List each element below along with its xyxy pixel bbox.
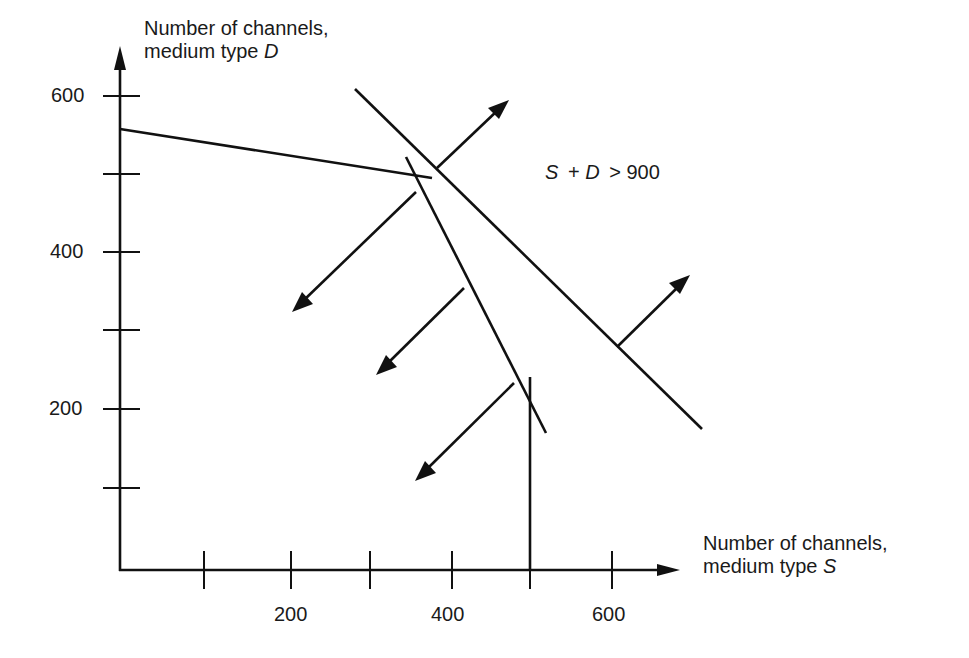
constraint-line-c [406,157,546,433]
direction-arrow-1 [437,110,498,168]
y-axis-arrowhead-icon [114,46,126,70]
x-axis-label-line2: medium type S [703,555,888,578]
y-axis-label-line2: medium type D [144,40,329,63]
x-tick-label-400: 400 [431,603,464,626]
y-tick-label-600: 600 [51,84,84,107]
x-axis-label: Number of channels, medium type S [703,532,888,578]
direction-arrow-2 [617,286,679,347]
y-axis-variable: D [264,40,278,62]
y-ticks [103,96,140,488]
y-axis-label: Number of channels, medium type D [144,17,329,63]
direction-arrow-3 [303,192,416,301]
constraint-line-sum-900 [355,89,702,429]
y-tick-label-400: 400 [50,240,83,263]
direction-arrow-4 [387,288,464,364]
direction-arrow-5 [426,383,514,470]
y-axis-label-line1: Number of channels, [144,17,329,40]
y-tick-label-200: 200 [49,397,82,420]
constraint-annotation: S + D > 900 [545,161,660,184]
x-axis-variable: S [823,555,836,577]
constraint-line-a [120,129,432,178]
x-axis-arrowhead-icon [657,564,680,576]
x-axis-label-line1: Number of channels, [703,532,888,555]
x-tick-label-200: 200 [274,603,307,626]
x-tick-label-600: 600 [592,603,625,626]
